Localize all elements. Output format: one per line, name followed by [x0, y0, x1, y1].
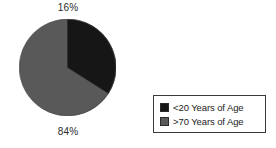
legend-label-over-70: >70 Years of Age — [173, 116, 244, 127]
pie-chart-area: 16% 84% — [0, 0, 148, 148]
legend-swatch-over-70 — [160, 117, 169, 126]
legend-label-under-20: <20 Years of Age — [173, 102, 244, 113]
legend-item-under-20: <20 Years of Age — [160, 100, 261, 114]
legend-item-over-70: >70 Years of Age — [160, 114, 261, 128]
legend-swatch-under-20 — [160, 103, 169, 112]
pie-slice-label-large: 84% — [0, 126, 136, 138]
pie-graphic — [19, 19, 116, 116]
pie-chart-figure: 16% 84% <20 Years of Age >70 Years of Ag… — [0, 0, 276, 148]
pie-slice-label-small: 16% — [0, 2, 136, 14]
chart-legend: <20 Years of Age >70 Years of Age — [153, 95, 266, 133]
